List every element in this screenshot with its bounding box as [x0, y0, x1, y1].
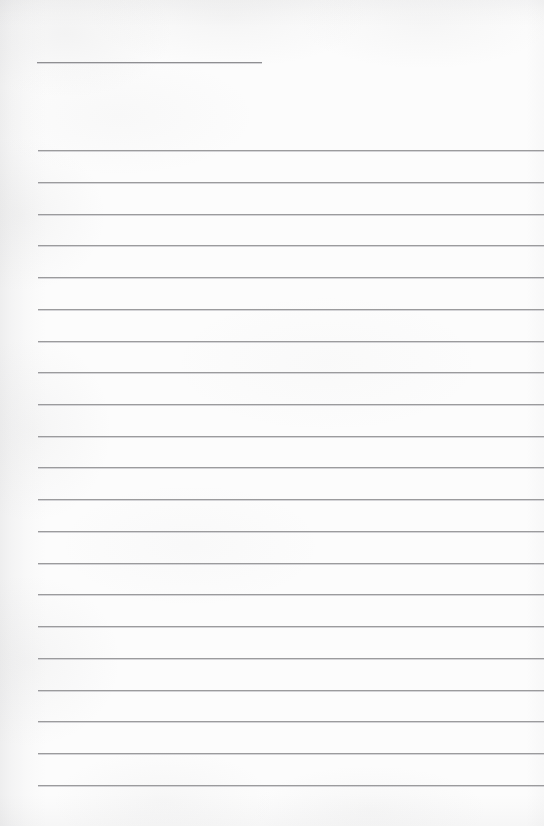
ruled-line-write-area[interactable]	[38, 502, 544, 532]
ruled-line-write-area[interactable]	[38, 534, 544, 564]
ruled-line-write-area[interactable]	[38, 629, 544, 659]
ruled-line-write-area[interactable]	[38, 565, 544, 595]
header-blank-write-area[interactable]	[37, 34, 262, 64]
ruled-line-write-area[interactable]	[38, 343, 544, 373]
ruled-line-write-area[interactable]	[38, 312, 544, 342]
scanned-page	[0, 0, 544, 826]
ruled-line-write-area[interactable]	[38, 724, 544, 754]
ruled-line-write-area[interactable]	[38, 185, 544, 215]
ruled-line-write-area[interactable]	[38, 692, 544, 722]
ruled-line-write-area[interactable]	[38, 470, 544, 500]
ruled-line-write-area[interactable]	[38, 248, 544, 278]
ruled-line-write-area[interactable]	[38, 216, 544, 246]
ruled-line-write-area[interactable]	[38, 407, 544, 437]
ruled-line-write-area[interactable]	[38, 661, 544, 691]
ruled-line-write-area[interactable]	[38, 375, 544, 405]
ruled-line-write-area[interactable]	[38, 153, 544, 183]
ruled-line-write-area[interactable]	[38, 756, 544, 786]
ruled-line-write-area[interactable]	[38, 121, 544, 151]
ruled-line-write-area[interactable]	[38, 597, 544, 627]
ruled-line-write-area[interactable]	[38, 438, 544, 468]
ruled-line-write-area[interactable]	[38, 280, 544, 310]
